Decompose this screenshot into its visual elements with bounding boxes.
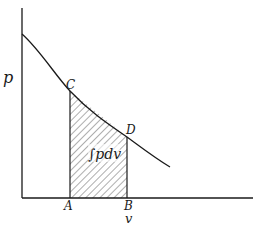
point-C-label: C (66, 78, 75, 92)
point-A-label: A (63, 199, 73, 213)
y-axis-label: p (3, 68, 13, 87)
pv-diagram: p C D ∫pdv A B v (0, 0, 258, 225)
point-D-label: D (125, 123, 136, 137)
area-integral-label: ∫pdv (88, 146, 121, 162)
x-axis-label: v (125, 211, 133, 225)
